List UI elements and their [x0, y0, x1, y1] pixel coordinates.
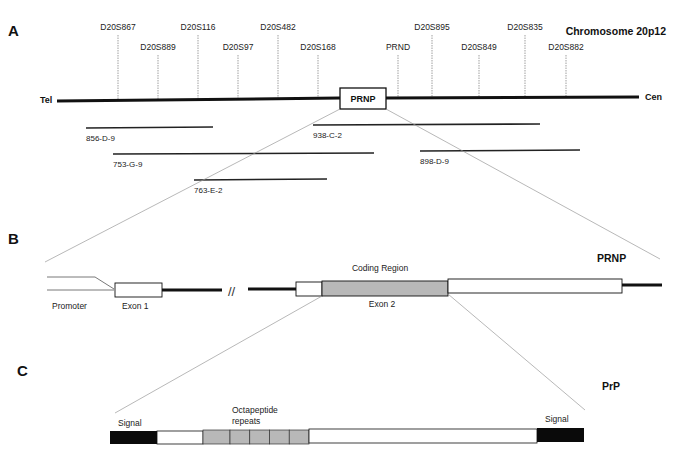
octapeptide-repeats — [203, 430, 309, 444]
prnp-box-label: PRNP — [350, 94, 375, 104]
signal-peptide-n-terminal — [110, 431, 157, 444]
clone-label: 856-D-9 — [86, 134, 115, 143]
figure-canvas: A Chromosome 20p12 D20S867D20S889D20S116… — [0, 0, 677, 453]
panel-c-letter: C — [17, 362, 28, 379]
clone-bar — [113, 153, 374, 154]
panel-a-title: Chromosome 20p12 — [566, 25, 667, 37]
exon-2-utr-5 — [296, 282, 322, 296]
clone-bar — [86, 127, 213, 128]
clone-label: 753-G-9 — [113, 160, 143, 169]
promoter-line-slant — [95, 277, 114, 289]
exon-2-label: Exon 2 — [369, 299, 396, 309]
octapeptide-repeat — [270, 430, 290, 444]
marker-label: D20S482 — [260, 22, 296, 32]
prnp-locus-figure: A Chromosome 20p12 D20S867D20S889D20S116… — [0, 0, 677, 453]
signal-left-label: Signal — [118, 418, 142, 428]
marker-label: D20S882 — [548, 42, 584, 52]
marker-label: D20S849 — [461, 42, 497, 52]
panel-b-letter: B — [8, 230, 19, 247]
panel-a-letter: A — [8, 22, 19, 39]
marker-label: PRND — [386, 42, 410, 52]
octapeptide-label-line1: Octapeptide — [232, 405, 278, 415]
signal-peptide-c-terminal — [537, 428, 584, 442]
marker-label: D20S168 — [300, 42, 336, 52]
protein-segment-2 — [309, 429, 537, 443]
marker-label: D20S835 — [507, 22, 543, 32]
zoom-guide-a-right — [386, 109, 660, 259]
cen-label: Cen — [645, 92, 662, 102]
tel-label: Tel — [40, 95, 52, 105]
octapeptide-repeat — [250, 430, 270, 444]
clone-bar — [194, 179, 327, 180]
signal-right-label: Signal — [545, 414, 569, 424]
zoom-guide-b-left — [115, 296, 322, 413]
promoter-label: Promoter — [52, 301, 87, 311]
zoom-guide-a-left — [45, 109, 340, 262]
octapeptide-repeat — [289, 430, 309, 444]
marker-label: D20S889 — [140, 42, 176, 52]
clone-label: 898-D-9 — [420, 157, 449, 166]
panel-c-title: PrP — [602, 380, 620, 392]
exon-2-coding-region — [322, 281, 448, 296]
coding-region-label: Coding Region — [352, 263, 409, 273]
gene-break-symbol: // — [228, 284, 236, 299]
marker-label: D20S867 — [100, 22, 136, 32]
marker-label: D20S97 — [223, 42, 254, 52]
exon-1-box — [115, 283, 162, 297]
chromosome-line-right — [386, 97, 639, 98]
clone-bar — [420, 150, 580, 151]
clone-bar — [313, 124, 540, 125]
clone-label: 938-C-2 — [313, 131, 342, 140]
protein-segment-1 — [157, 431, 203, 444]
chromosome-line-left — [57, 98, 340, 101]
zoom-guide-b-right — [448, 294, 585, 410]
exon-1-label: Exon 1 — [122, 301, 149, 311]
octapeptide-repeat — [203, 430, 230, 444]
panel-b-title: PRNP — [597, 252, 626, 264]
marker-label: D20S895 — [414, 22, 450, 32]
exon-2-utr-3 — [448, 279, 622, 293]
clone-group: 856-D-9938-C-2753-G-9898-D-9763-E-2 — [86, 124, 580, 195]
marker-label: D20S116 — [181, 22, 216, 32]
octapeptide-repeat — [230, 430, 250, 444]
clone-label: 763-E-2 — [194, 186, 223, 195]
octapeptide-label-line2: repeats — [232, 416, 260, 426]
